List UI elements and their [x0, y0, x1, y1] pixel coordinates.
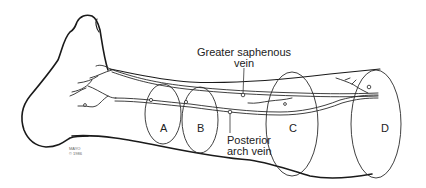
- posterior-arch-label: Posterior arch vein: [227, 135, 272, 157]
- upper-vein-branch: [336, 78, 368, 93]
- perforator-d: [367, 85, 371, 89]
- perforator-c: [284, 103, 287, 106]
- foot-outline: [22, 15, 108, 147]
- greater-saphenous-vein-wall: [112, 72, 378, 97]
- section-label-b: B: [197, 123, 204, 134]
- section-ellipse-d: [351, 70, 401, 178]
- credit-label: MAYO © 1986: [69, 146, 82, 156]
- posterior-arch-label-line2: arch vein: [227, 146, 272, 157]
- perforator-b: [184, 100, 187, 103]
- posterior-arch-marker: [228, 110, 232, 114]
- leg-vein-illustration: [0, 0, 426, 188]
- perforator-a: [149, 98, 152, 101]
- section-label-c: C: [289, 123, 297, 134]
- section-label-a: A: [160, 123, 167, 134]
- greater-saphenous-marker: [241, 93, 245, 97]
- greater-saphenous-label-line2: vein: [183, 58, 305, 69]
- section-label-d: D: [381, 123, 389, 134]
- greater-saphenous-label: Greater saphenous vein: [183, 47, 305, 69]
- foot-vein-branches: [70, 65, 116, 107]
- foot-perforator: [84, 104, 87, 107]
- section-ellipse-b: [182, 87, 218, 153]
- greater-saphenous-leader: [243, 68, 244, 94]
- leg-bottom-outline: [72, 136, 372, 179]
- section-ellipse-a: [145, 84, 181, 144]
- credit-line2: © 1986: [69, 151, 82, 156]
